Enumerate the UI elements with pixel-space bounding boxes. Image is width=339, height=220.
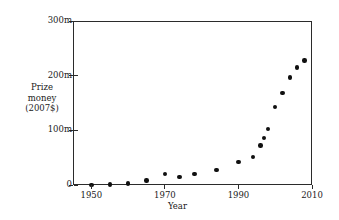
data-point <box>295 65 299 69</box>
x-axis-tick-label: 1950 <box>81 191 103 200</box>
x-axis-tick-mark <box>164 185 165 189</box>
y-axis-label-line-1: Prize <box>14 82 70 93</box>
y-axis-tick-label: 100m <box>48 125 72 134</box>
data-point <box>258 143 262 147</box>
y-axis-tick-mark-inner <box>74 185 78 186</box>
y-axis-tick-label: 0 <box>67 180 72 189</box>
data-point <box>192 172 196 176</box>
data-point <box>302 58 306 62</box>
x-axis-tick-label: 1970 <box>154 191 176 200</box>
y-axis-tick-mark-inner <box>74 75 78 76</box>
data-point <box>266 127 270 131</box>
y-axis-label-line-2: money <box>14 93 70 104</box>
data-point <box>214 168 218 172</box>
data-point <box>108 182 112 186</box>
plot-data-area <box>73 21 312 185</box>
y-axis-tick-label: 200m <box>48 71 72 80</box>
y-axis-tick-mark-inner <box>74 130 78 131</box>
x-axis-tick-mark <box>91 185 92 189</box>
x-axis-label: Year <box>0 201 339 211</box>
data-point <box>273 105 277 109</box>
data-point <box>177 175 181 179</box>
y-axis-label: Prize money (2007$) <box>14 82 70 114</box>
data-point <box>163 172 167 176</box>
data-point <box>280 91 284 95</box>
y-axis-label-line-3: (2007$) <box>14 103 70 114</box>
scatter-chart-figure: Prize money (2007$) Year 0100m200m300m19… <box>0 0 339 220</box>
x-axis-label-text: Year <box>168 201 187 211</box>
data-point <box>236 160 240 164</box>
data-point <box>251 155 255 159</box>
x-axis-tick-mark <box>238 185 239 189</box>
x-axis-tick-mark <box>312 185 313 189</box>
x-axis-tick-label: 1990 <box>228 191 250 200</box>
data-point <box>144 178 148 182</box>
y-axis-tick-mark-inner <box>74 21 78 22</box>
data-point <box>262 136 266 140</box>
x-axis-tick-label: 2010 <box>301 191 323 200</box>
data-point <box>126 181 130 185</box>
data-point <box>288 75 292 79</box>
y-axis-tick-label: 300m <box>48 16 72 25</box>
